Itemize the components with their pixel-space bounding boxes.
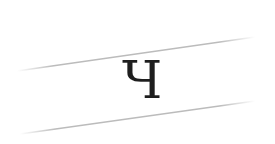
captcha-image: Ч: [0, 0, 275, 144]
captcha-character: Ч: [122, 50, 152, 110]
